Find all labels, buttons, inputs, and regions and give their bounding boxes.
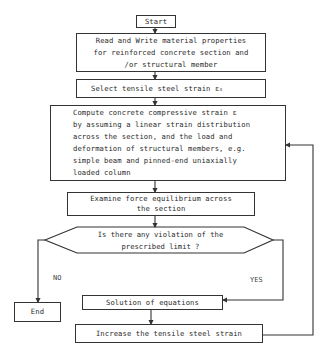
start-label: Start bbox=[145, 16, 167, 28]
decision-label: Is there any violation of the prescribed… bbox=[77, 229, 244, 253]
select-strain-label: Select tensile steel strain ε bbox=[91, 83, 219, 95]
select-strain-subscript: s bbox=[219, 83, 222, 95]
increase-strain-node: Increase the tensile steel strain bbox=[75, 324, 263, 343]
examine-equilibrium-label: Examine force equilibrium across the sec… bbox=[90, 194, 232, 214]
end-node: End bbox=[14, 302, 61, 322]
solution-node: Solution of equations bbox=[82, 295, 223, 310]
examine-equilibrium-node: Examine force equilibrium across the sec… bbox=[67, 192, 255, 216]
start-node: Start bbox=[136, 15, 176, 28]
end-label: End bbox=[31, 306, 44, 318]
compute-strain-node: Compute concrete compressive strain ε by… bbox=[50, 105, 286, 181]
select-strain-node: Select tensile steel strain εs bbox=[76, 79, 266, 98]
no-branch-label: NO bbox=[53, 274, 61, 282]
read-write-label: Read and Write material properties for r… bbox=[94, 35, 249, 71]
read-write-node: Read and Write material properties for r… bbox=[76, 33, 266, 72]
solution-label: Solution of equations bbox=[106, 297, 199, 309]
increase-strain-label: Increase the tensile steel strain bbox=[96, 328, 242, 340]
yes-branch-label: YES bbox=[250, 276, 263, 284]
compute-strain-label: Compute concrete compressive strain ε by… bbox=[73, 107, 250, 179]
